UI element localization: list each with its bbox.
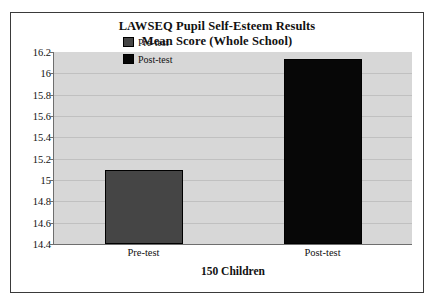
plot-area [54, 52, 412, 244]
chart-figure: LAWSEQ Pupil Self-Esteem Results Mean Sc… [10, 12, 424, 293]
x-axis-tick-label: Pre-test [84, 247, 204, 258]
x-axis-tick-label: Post-test [263, 247, 383, 258]
x-axis-line [53, 244, 412, 245]
legend-item: Pre-test [123, 35, 172, 49]
chart-legend: Pre-testPost-test [123, 35, 172, 69]
chart-title-line-2: Mean Score (Whole School) [11, 34, 423, 49]
legend-item: Post-test [123, 52, 172, 66]
legend-label: Pre-test [138, 37, 169, 48]
x-axis-title: 150 Children [54, 265, 412, 277]
bar-pre-test [105, 170, 183, 244]
legend-swatch-icon [123, 54, 134, 64]
chart-title: LAWSEQ Pupil Self-Esteem Results Mean Sc… [11, 19, 423, 49]
chart-title-line-1: LAWSEQ Pupil Self-Esteem Results [11, 19, 423, 34]
y-axis-tick-marks [11, 52, 54, 244]
legend-swatch-icon [123, 37, 134, 47]
legend-label: Post-test [138, 54, 172, 65]
bar-post-test [284, 59, 362, 244]
y-axis-line [53, 52, 54, 245]
